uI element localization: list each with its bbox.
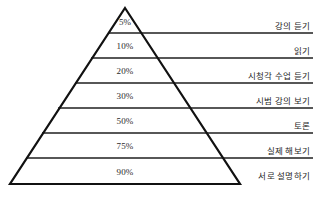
pyramid-diagram xyxy=(0,0,322,197)
learning-pyramid-figure: 5%10%20%30%50%75%90% 강의 듣기읽기시청각 수업 듣기시범 … xyxy=(0,0,322,197)
